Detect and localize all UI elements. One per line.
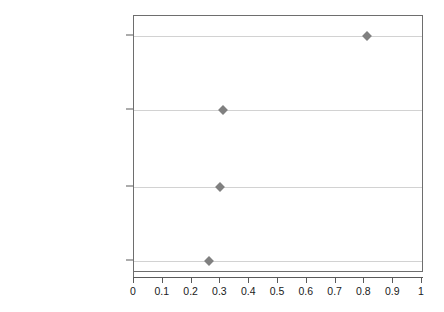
x-axis-tick-label: 0.6 [298,285,313,297]
x-axis-tick-label: 0.4 [241,285,256,297]
gridline [134,110,422,111]
x-axis-tick [335,277,336,283]
x-axis-line [133,277,423,278]
y-axis-tick [126,35,133,36]
data-point-marker[interactable] [362,31,372,41]
x-axis-tick-label: 0.5 [270,285,285,297]
x-axis-tick-label: 0.9 [385,285,400,297]
x-axis-tick-label: 0.8 [356,285,371,297]
x-axis-tick [162,277,163,283]
x-axis-tick [421,277,422,283]
data-point-marker[interactable] [218,105,228,115]
y-axis-line [133,15,134,277]
x-axis-tick [277,277,278,283]
x-axis-tick-label: 0 [130,285,136,297]
plot-area [133,15,423,272]
gridline [134,36,422,37]
y-axis-tick [126,186,133,187]
x-axis-tick-label: 0.3 [212,285,227,297]
y-axis-tick [126,109,133,110]
x-axis-tick [392,277,393,283]
x-axis-tick [306,277,307,283]
x-axis-tick [133,277,134,283]
dot-plot-chart: Rape (98) Abduction (31) Kill/harm civil… [0,0,444,312]
data-point-marker[interactable] [215,182,225,192]
data-point-marker[interactable] [204,256,214,266]
y-axis-tick [126,260,133,261]
x-axis-tick [219,277,220,283]
x-axis-tick [363,277,364,283]
gridline [134,261,422,262]
x-axis-tick [248,277,249,283]
x-axis-tick-label: 0.1 [154,285,169,297]
gridline [134,187,422,188]
x-axis-tick-label: 0.2 [183,285,198,297]
x-axis-tick [191,277,192,283]
x-axis-tick-label: 0.7 [327,285,342,297]
x-axis-tick-label: 1 [418,285,424,297]
